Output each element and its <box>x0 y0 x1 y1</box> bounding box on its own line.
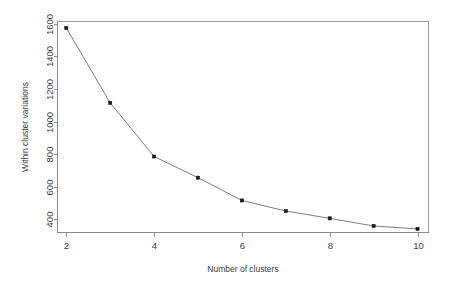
y-axis-tick-labels: 4006008001000120014001600 <box>44 14 55 228</box>
data-point-marker <box>416 227 419 230</box>
y-tick-label: 600 <box>44 180 55 196</box>
x-tick-label: 6 <box>240 240 245 251</box>
data-point-marker <box>328 217 331 220</box>
data-point-marker <box>372 224 375 227</box>
x-tick-label: 2 <box>64 240 69 251</box>
data-point-marker <box>284 209 287 212</box>
y-tick-label: 800 <box>44 147 55 163</box>
x-tick-label: 10 <box>413 240 424 251</box>
y-tick-label: 400 <box>44 212 55 228</box>
y-axis-title: Within cluster variations <box>20 82 30 172</box>
chart-canvas: 4006008001000120014001600 246810 Number … <box>0 0 456 293</box>
data-point-marker <box>65 26 68 29</box>
y-tick-label: 1600 <box>44 14 55 35</box>
data-point-marker <box>109 101 112 104</box>
y-tick-label: 1000 <box>44 112 55 133</box>
elbow-plot-figure: 4006008001000120014001600 246810 Number … <box>0 0 456 293</box>
data-point-marker <box>240 199 243 202</box>
y-tick-label: 1400 <box>44 46 55 67</box>
x-axis-title: Number of clusters <box>207 264 278 274</box>
y-tick-label: 1200 <box>44 79 55 100</box>
data-point-marker <box>196 176 199 179</box>
x-tick-label: 8 <box>328 240 333 251</box>
x-tick-label: 4 <box>152 240 157 251</box>
data-point-marker <box>153 155 156 158</box>
